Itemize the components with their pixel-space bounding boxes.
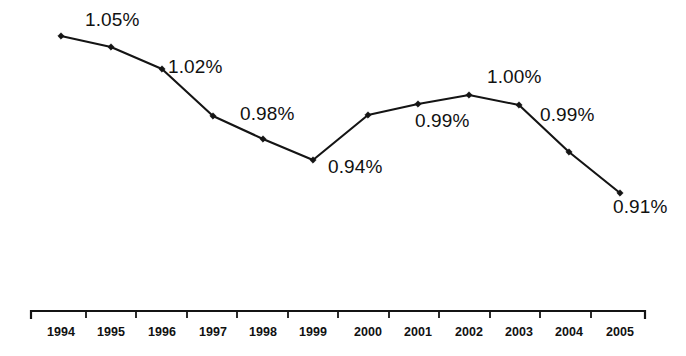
value-label-1994: 1.05% [85, 10, 139, 29]
data-point-marker [58, 33, 64, 39]
x-axis-label-2002: 2002 [455, 326, 483, 339]
value-label-2002: 1.00% [487, 67, 541, 86]
chart-plot-area [0, 0, 686, 356]
data-point-marker [108, 44, 114, 50]
x-axis-label-1994: 1994 [47, 326, 75, 339]
value-label-2001: 0.99% [415, 111, 469, 130]
x-axis-label-2004: 2004 [555, 326, 583, 339]
x-axis-label-2003: 2003 [505, 326, 533, 339]
x-axis-label-1998: 1998 [249, 326, 277, 339]
value-label-1996: 1.02% [168, 57, 222, 76]
x-axis-label-2000: 2000 [354, 326, 382, 339]
data-point-marker [415, 101, 421, 107]
value-label-1997: 0.98% [240, 104, 294, 123]
value-label-1999: 0.94% [328, 157, 382, 176]
line-chart: 1.05%1.02%0.98%0.94%0.99%1.00%0.99%0.91%… [0, 0, 686, 356]
x-axis-label-2005: 2005 [606, 326, 634, 339]
x-axis-label-1995: 1995 [97, 326, 125, 339]
x-axis-label-2001: 2001 [404, 326, 432, 339]
x-axis-label-1997: 1997 [199, 326, 227, 339]
value-label-2005: 0.91% [613, 197, 667, 216]
data-point-marker [466, 92, 472, 98]
x-axis-label-1999: 1999 [299, 326, 327, 339]
data-point-marker [260, 136, 266, 142]
x-axis-label-1996: 1996 [148, 326, 176, 339]
value-label-2003: 0.99% [540, 105, 594, 124]
x-axis-group [31, 310, 645, 319]
